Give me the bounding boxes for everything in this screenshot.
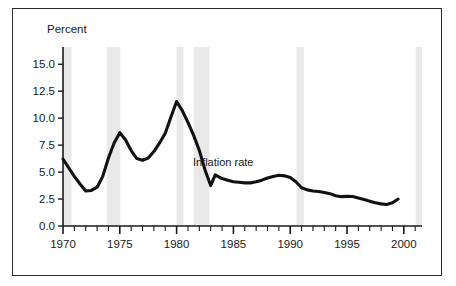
y-axis-tick-label: 2.5: [39, 193, 55, 205]
x-axis-tick-label: 1985: [221, 238, 247, 250]
x-axis-tick-label: 1980: [164, 238, 190, 250]
y-axis-ticks-group: 0.02.55.07.510.012.515.0: [33, 58, 63, 232]
x-axis-ticks-group: [63, 226, 415, 234]
x-axis-tick-label: 1970: [50, 238, 76, 250]
y-axis-tick-label: 10.0: [33, 112, 55, 124]
recession-band: [296, 47, 303, 226]
series-annotation-label: Inflation rate: [193, 156, 254, 168]
x-axis-tick-label: 2000: [391, 238, 417, 250]
y-axis-tick-label: 0.0: [39, 220, 55, 232]
x-axis-tick-label: 1990: [277, 238, 303, 250]
y-axis-tick-label: 12.5: [33, 85, 55, 97]
chart-figure-frame: 0.02.55.07.510.012.515.01970197519801985…: [12, 8, 442, 276]
y-axis-tick-label: 7.5: [39, 139, 55, 151]
inflation-rate-line-chart: 0.02.55.07.510.012.515.01970197519801985…: [13, 9, 440, 274]
y-axis-tick-label: 5.0: [39, 166, 55, 178]
recession-band: [416, 47, 422, 226]
recession-band: [177, 47, 184, 226]
recession-band: [194, 47, 210, 226]
recession-band: [63, 47, 72, 226]
screenshot-root: 0.02.55.07.510.012.515.01970197519801985…: [0, 0, 456, 286]
x-axis-tick-label: 1995: [334, 238, 360, 250]
x-axis-labels-group: 1970197519801985199019952000: [50, 238, 416, 250]
x-axis-tick-label: 1975: [107, 238, 133, 250]
y-axis-title: Percent: [47, 23, 87, 35]
y-axis-tick-label: 15.0: [33, 58, 55, 70]
